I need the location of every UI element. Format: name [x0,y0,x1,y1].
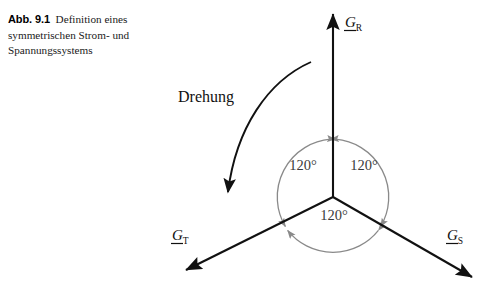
angle-arc-st [288,230,379,252]
angle-label-rs: 120° [350,157,378,173]
vector-group [186,14,472,277]
vector-label-g-t-sub: T [183,236,189,246]
vector-label-g-r-sub: R [356,23,363,33]
angle-label-st: 120° [320,207,348,223]
vector-label-g-s-sub: S [458,236,463,246]
rotation-label: Drehung [178,88,234,106]
vector-label-g-t: GT [171,227,189,246]
vector-label-g-r: GR [344,14,363,33]
vector-g-t [186,197,333,270]
figure-container: Abb. 9.1 Definition eines symmetrischen … [0,0,484,299]
vector-label-g-s: GS [446,227,463,246]
angle-label-tr: 120° [289,157,317,173]
phasor-diagram: Drehung GR GS GT 120° 120° 120° [0,0,484,299]
